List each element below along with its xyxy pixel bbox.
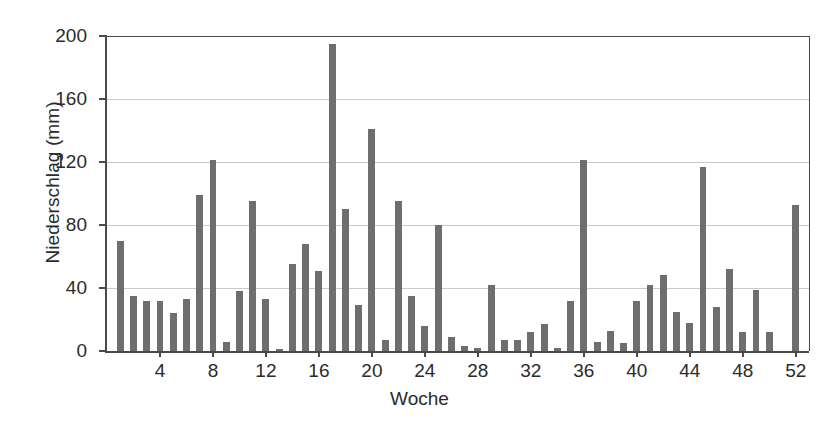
y-axis-title: Niederschlag (mm) [30,80,76,285]
bar [421,326,428,351]
bar [647,285,654,351]
x-axis-tick-label: 52 [766,360,826,382]
bar [580,160,587,351]
bar [315,271,322,351]
bar [527,332,534,351]
x-axis-tick [742,351,744,357]
x-axis-tick-label: 32 [501,360,561,382]
y-axis-tick-label: 160 [0,89,87,108]
x-axis-tick [636,351,638,357]
bar [196,195,203,351]
x-axis-tick [583,351,585,357]
bar [157,301,164,351]
x-axis-tick [265,351,267,357]
bar [183,299,190,351]
bar [143,301,150,351]
bar [355,305,362,351]
bar [686,323,693,351]
x-axis-tick [795,351,797,357]
y-axis-tick-label: 120 [0,152,87,171]
y-axis-tick [99,287,107,289]
bar [329,44,336,351]
x-axis-tick-label: 48 [713,360,773,382]
x-axis-tick [159,351,161,357]
y-axis-tick [99,350,107,352]
bar [210,160,217,351]
bar [488,285,495,351]
bar [461,346,468,351]
bar [620,343,627,351]
bar [633,301,640,351]
bar [753,290,760,351]
bar [342,209,349,351]
y-axis-tick-label: 40 [0,278,87,297]
bar [739,332,746,351]
bar [236,291,243,351]
bar [382,340,389,351]
precipitation-bar-chart: Niederschlag (mm) 4812162024283236404448… [0,0,839,435]
y-axis-tick-label: 80 [0,215,87,234]
x-axis-tick [477,351,479,357]
bar [130,296,137,351]
y-axis-tick [99,35,107,37]
bar [567,301,574,351]
bar [501,340,508,351]
bar [276,349,283,351]
bar [713,307,720,351]
bar [660,275,667,351]
x-axis-tick-label: 20 [342,360,402,382]
bar [554,348,561,351]
bar [249,201,256,351]
x-axis-tick-label: 24 [395,360,455,382]
x-axis-tick-label: 8 [183,360,243,382]
bar [289,264,296,351]
bar [395,201,402,351]
bar [435,225,442,351]
x-axis-tick [689,351,691,357]
x-axis-tick [318,351,320,357]
bar [541,324,548,351]
x-axis-tick-label: 44 [660,360,720,382]
bar [302,244,309,351]
y-axis-tick-label: 0 [0,341,87,360]
bar-series [107,36,809,351]
bar [673,312,680,351]
x-axis-title: Woche [0,388,839,410]
bar [117,241,124,351]
bar [408,296,415,351]
bar [607,331,614,351]
right-axis-frame [809,36,810,351]
bar [700,167,707,351]
bar [170,313,177,351]
x-axis-tick-label: 36 [554,360,614,382]
bar [448,337,455,351]
x-axis-tick-label: 28 [448,360,508,382]
x-axis-tick [424,351,426,357]
x-axis-tick [371,351,373,357]
bar [262,299,269,351]
y-axis-tick [99,224,107,226]
bar [766,332,773,351]
x-axis-tick-label: 12 [236,360,296,382]
x-axis-tick-label: 4 [130,360,190,382]
bar [514,340,521,351]
bar [368,129,375,351]
bar [594,342,601,351]
bar [726,269,733,351]
x-axis-tick [212,351,214,357]
bar [223,342,230,351]
y-axis-tick [99,98,107,100]
bar [792,205,799,351]
x-axis-tick-label: 16 [289,360,349,382]
plot-area: 481216202428323640444852 [105,36,809,353]
y-axis-tick-label: 200 [0,26,87,45]
x-axis-tick [530,351,532,357]
x-axis-tick-label: 40 [607,360,667,382]
y-axis-tick [99,161,107,163]
